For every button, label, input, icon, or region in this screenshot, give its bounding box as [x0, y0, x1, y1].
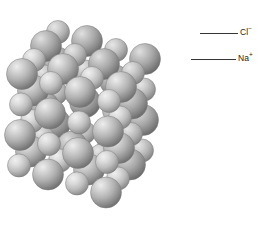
sodium-ion-sphere [40, 72, 63, 95]
label-sodium-charge: + [249, 51, 253, 58]
label-chloride-charge: − [248, 25, 252, 32]
chloride-ion-sphere [65, 77, 96, 108]
crystal-lattice-illustration [0, 0, 267, 229]
chloride-ion-sphere [35, 98, 66, 129]
sodium-ion-sphere [10, 93, 33, 116]
label-sodium: Na+ [238, 54, 253, 63]
chloride-ion-sphere [63, 138, 94, 169]
sodium-ion-sphere [68, 111, 91, 134]
label-sodium-symbol: Na [238, 53, 249, 63]
sodium-ion-sphere [66, 172, 89, 195]
nacl-crystal-figure: Cl− Na+ [0, 0, 267, 229]
sodium-ion-sphere [96, 151, 119, 174]
chloride-ion-sphere [5, 120, 36, 151]
chloride-ion-sphere [91, 177, 122, 208]
chloride-ion-sphere [93, 116, 124, 147]
sodium-ion-sphere [98, 90, 121, 113]
sodium-ion-sphere [8, 154, 31, 177]
leader-lines [191, 33, 238, 59]
label-chloride: Cl− [240, 28, 252, 37]
lattice-spheres [5, 21, 161, 209]
chloride-ion-sphere [7, 59, 38, 90]
sodium-ion-sphere [38, 133, 61, 156]
chloride-ion-sphere [33, 159, 64, 190]
label-chloride-symbol: Cl [240, 27, 248, 37]
